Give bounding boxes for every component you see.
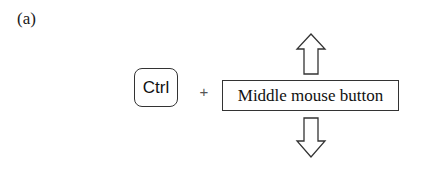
middle-mouse-button-label: Middle mouse button xyxy=(238,86,383,106)
arrow-down-icon xyxy=(294,117,328,161)
panel-label: (a) xyxy=(17,9,36,29)
ctrl-key: Ctrl xyxy=(134,68,178,107)
plus-operator: + xyxy=(197,83,211,100)
arrow-up-icon xyxy=(294,32,328,76)
ctrl-key-label: Ctrl xyxy=(143,78,169,98)
middle-mouse-button-box: Middle mouse button xyxy=(222,80,399,111)
